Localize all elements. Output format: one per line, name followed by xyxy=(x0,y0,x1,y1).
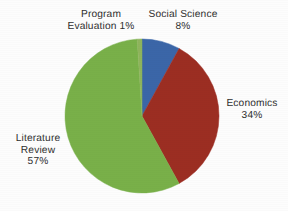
slice-label-economics-line2: 34% xyxy=(219,110,285,122)
chart-plot-area: Program Evaluation 1% Social Science 8% … xyxy=(0,0,288,211)
slice-label-social-science-line2: 8% xyxy=(139,21,227,33)
slice-label-program-evaluation-line2: Evaluation 1% xyxy=(61,21,141,33)
slice-label-literature-review-line1: Literature xyxy=(4,133,72,145)
slice-label-social-science-line1: Social Science xyxy=(139,9,227,21)
slice-label-literature-review: Literature Review 57% xyxy=(4,133,72,168)
slice-label-program-evaluation: Program Evaluation 1% xyxy=(61,9,141,32)
slice-label-literature-review-line3: 57% xyxy=(4,156,72,168)
slice-label-literature-review-line2: Review xyxy=(4,145,72,157)
pie-chart-figure: Program Evaluation 1% Social Science 8% … xyxy=(0,0,288,211)
slice-label-social-science: Social Science 8% xyxy=(139,9,227,32)
pie-slices-group xyxy=(65,39,219,193)
slice-label-program-evaluation-line1: Program xyxy=(61,9,141,21)
slice-label-economics: Economics 34% xyxy=(219,98,285,121)
slice-label-economics-line1: Economics xyxy=(219,98,285,110)
